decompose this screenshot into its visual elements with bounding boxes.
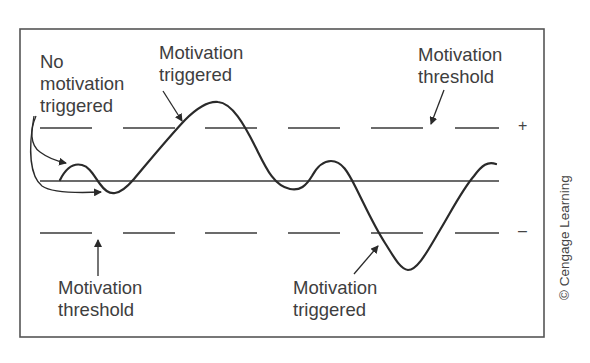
label-motivation-threshold-top: Motivation threshold [418,44,502,88]
minus-sign: – [518,222,527,240]
label-motivation-triggered-top: Motivation triggered [159,42,243,86]
label-line: triggered [40,95,124,117]
arrow-triggered-top [163,91,182,121]
label-line: threshold [418,66,502,88]
plus-sign: + [518,117,527,135]
label-line: Motivation [159,42,243,64]
label-line: triggered [293,299,377,321]
motivation-threshold-diagram: No motivation triggered Motivation trigg… [0,0,590,363]
label-line: motivation [40,73,124,95]
label-line: Motivation [293,277,377,299]
arrow-no-motivation-upper [32,116,66,163]
label-motivation-threshold-bottom: Motivation threshold [58,277,142,321]
arrow-threshold-top [431,90,444,124]
arrow-triggered-bottom [354,246,378,274]
label-no-motivation-triggered: No motivation triggered [40,51,124,117]
label-line: Motivation [58,277,142,299]
copyright-credit: © Cengage Learning [557,175,572,300]
label-line: No [40,51,124,73]
motivation-curve [60,102,496,270]
label-line: threshold [58,299,142,321]
label-line: triggered [159,64,243,86]
label-line: Motivation [418,44,502,66]
label-motivation-triggered-bottom: Motivation triggered [293,277,377,321]
